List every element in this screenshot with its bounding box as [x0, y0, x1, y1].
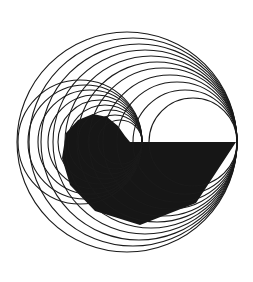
- geometric-circles-artwork: [0, 0, 253, 282]
